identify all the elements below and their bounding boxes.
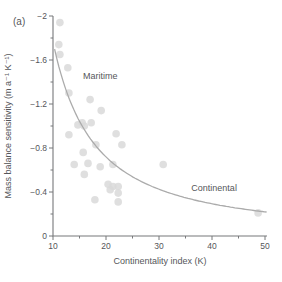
scatter-point bbox=[56, 51, 64, 59]
scatter-point bbox=[55, 41, 63, 49]
annotation-continental: Continental bbox=[191, 183, 237, 193]
annotation-maritime: Maritime bbox=[83, 71, 118, 81]
scatter-point bbox=[86, 96, 94, 104]
scatter-point bbox=[118, 141, 126, 149]
y-tick-label: −1.6 bbox=[30, 55, 47, 65]
figure-label: (a) bbox=[13, 16, 25, 27]
scatter-point bbox=[114, 183, 122, 191]
y-tick-label: 0 bbox=[42, 231, 47, 241]
scatter-point bbox=[114, 198, 122, 206]
x-tick-label: 50 bbox=[260, 241, 270, 251]
scatter-point bbox=[96, 163, 104, 171]
axes: −2−1.6−1.2−0.8−0.401020304050 bbox=[30, 11, 270, 251]
scatter-point bbox=[159, 161, 167, 169]
y-tick-label: −0.4 bbox=[30, 187, 47, 197]
y-tick-label: −1.2 bbox=[30, 99, 47, 109]
x-tick-label: 20 bbox=[101, 241, 111, 251]
y-axis-label: Mass balance sensitivity (m a⁻¹ K⁻¹) bbox=[3, 53, 13, 198]
scatter-point bbox=[84, 160, 92, 168]
scatter-point bbox=[87, 119, 95, 127]
scatter-point bbox=[65, 131, 73, 139]
y-tick-label: −2 bbox=[37, 11, 47, 21]
scatter-point bbox=[79, 149, 87, 157]
scatter-point bbox=[112, 130, 120, 138]
scatter-point bbox=[97, 107, 105, 115]
scatter-point bbox=[64, 64, 72, 72]
y-tick-label: −0.8 bbox=[30, 143, 47, 153]
scatter-point bbox=[106, 186, 114, 194]
scatter-point bbox=[114, 189, 122, 197]
x-tick-label: 40 bbox=[207, 241, 217, 251]
x-axis-label: Continentality index (K) bbox=[113, 256, 206, 266]
x-tick-label: 30 bbox=[154, 241, 164, 251]
figure-panel: (a) −2−1.6−1.2−0.8−0.401020304050 Mariti… bbox=[0, 0, 282, 282]
scatter-point bbox=[81, 171, 89, 179]
x-tick-label: 10 bbox=[48, 241, 58, 251]
scatter-point bbox=[56, 19, 64, 27]
scatter-chart: (a) −2−1.6−1.2−0.8−0.401020304050 Mariti… bbox=[0, 0, 282, 282]
scatter-point bbox=[70, 161, 78, 169]
scatter-point bbox=[91, 196, 99, 204]
